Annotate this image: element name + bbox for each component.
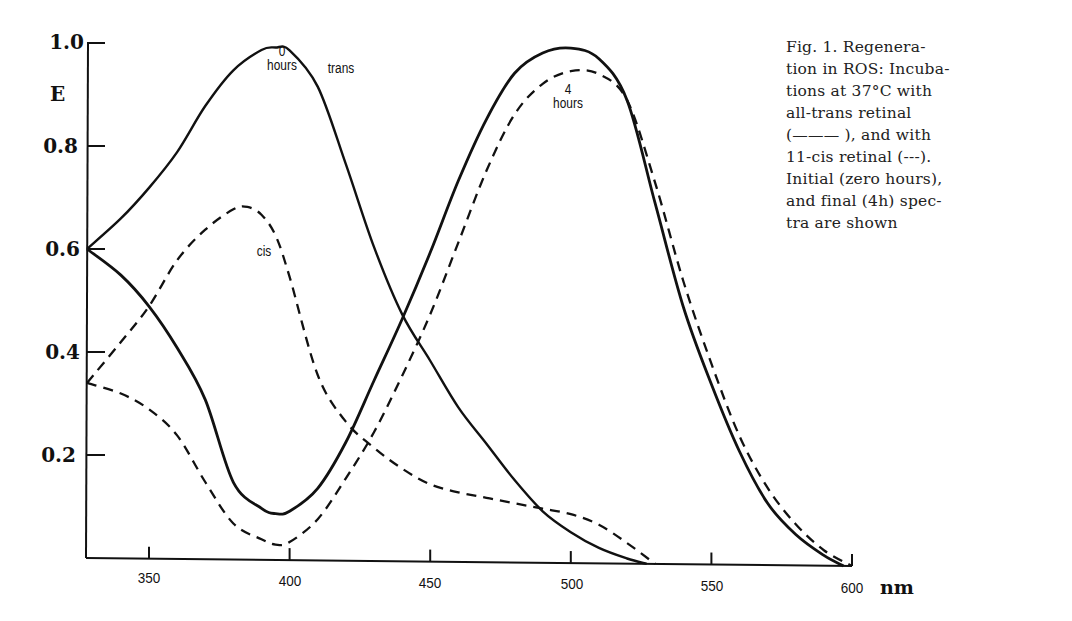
- y-axis-label: E: [50, 82, 65, 106]
- caption-line: Fig. 1. Regenera-: [786, 36, 1072, 58]
- y-tick-label-0-4: 0.4: [10, 340, 80, 364]
- y-tick-label-1-0: 1.0: [14, 30, 84, 54]
- annotation-cis: cis: [247, 244, 281, 258]
- caption-line: tion in ROS: Incuba-: [786, 58, 1072, 80]
- x-tick-label-400: 400: [268, 572, 313, 589]
- annotation-0-hours-number: 0: [261, 44, 304, 58]
- data-series: [87, 46, 852, 566]
- caption-line: and final (4h) spec-: [786, 190, 1072, 212]
- y-ticks: [87, 43, 105, 455]
- series-line-all-trans-0-hours: [87, 46, 647, 563]
- caption-line: all-trans retinal: [786, 102, 1072, 124]
- caption-line: 11-cis retinal (---).: [786, 146, 1072, 168]
- chart-axes: [86, 43, 852, 566]
- x-axis-unit-label: nm: [880, 576, 914, 598]
- series-line-all-trans-4-hours: [87, 48, 844, 566]
- annotation-4-hours-number: 4: [547, 82, 590, 96]
- y-axis-line: [86, 43, 88, 558]
- annotation-4-hours: 4 hours: [547, 82, 590, 110]
- x-tick-label-500: 500: [550, 575, 595, 592]
- series-line-11-cis-4-hours: [87, 70, 852, 566]
- y-tick-label-0-6: 0.6: [10, 237, 80, 261]
- annotation-0-hours-word: hours: [261, 58, 304, 72]
- figure-caption: Fig. 1. Regenera- tion in ROS: Incuba- t…: [786, 36, 1072, 234]
- x-tick-label-450: 450: [408, 574, 453, 591]
- x-tick-label-350: 350: [127, 569, 172, 586]
- x-tick-label-600: 600: [830, 579, 875, 596]
- x-tick-label-550: 550: [690, 577, 735, 594]
- caption-line: Initial (zero hours),: [786, 168, 1072, 190]
- annotation-0-hours: 0 hours: [261, 44, 304, 72]
- annotation-4-hours-word: hours: [547, 96, 590, 110]
- caption-line: tra are shown: [786, 212, 1072, 234]
- y-tick-label-0-2: 0.2: [6, 443, 76, 467]
- caption-line: tions at 37°C with: [786, 80, 1072, 102]
- y-tick-label-0-8: 0.8: [8, 134, 78, 158]
- annotation-trans: trans: [320, 61, 363, 75]
- caption-line: (——— ), and with: [786, 124, 1072, 146]
- x-axis-line: [86, 558, 852, 566]
